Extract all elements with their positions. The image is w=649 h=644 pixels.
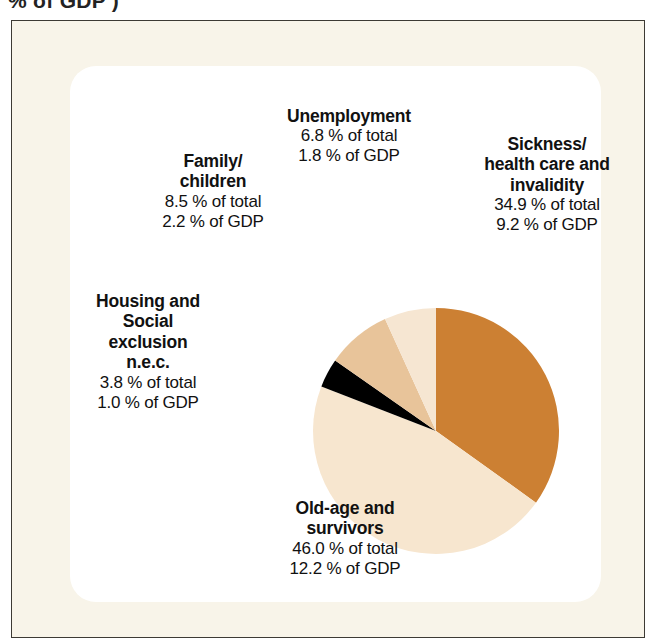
pie-label-oldage-total: 46.0 % of total — [227, 539, 463, 559]
pie-label-oldage: Old-age and survivors 46.0 % of total 12… — [227, 498, 463, 579]
pie-label-sickness-total: 34.9 % of total — [449, 195, 645, 215]
figure-frame: Unemployment 6.8 % of total 1.8 % of GDP… — [11, 20, 645, 638]
pie-label-family-title-line2: children — [118, 171, 308, 191]
pie-label-housing-gdp: 1.0 % of GDP — [50, 393, 246, 413]
pie-label-sickness-title-line1: Sickness/ — [449, 134, 645, 154]
pie-label-sickness-title-line2: health care and — [449, 154, 645, 174]
pie-label-housing: Housing and Social exclusion n.e.c. 3.8 … — [50, 291, 246, 413]
pie-label-sickness-gdp: 9.2 % of GDP — [449, 215, 645, 235]
pie-label-housing-title-line1: Housing and — [50, 291, 246, 311]
pie-label-family-total: 8.5 % of total — [118, 192, 308, 212]
pie-label-oldage-title-line2: survivors — [227, 518, 463, 538]
pie-label-housing-title-line3: exclusion — [50, 332, 246, 352]
pie-label-sickness-title-line3: invalidity — [449, 175, 645, 195]
pie-label-oldage-title-line1: Old-age and — [227, 498, 463, 518]
pie-label-family-gdp: 2.2 % of GDP — [118, 212, 308, 232]
pie-label-sickness: Sickness/ health care and invalidity 34.… — [449, 134, 645, 235]
pie-label-housing-total: 3.8 % of total — [50, 373, 246, 393]
caption-fragment-text: % of GDP ) — [8, 0, 119, 12]
pie-label-oldage-gdp: 12.2 % of GDP — [227, 559, 463, 579]
pie-label-unemployment-total: 6.8 % of total — [244, 126, 454, 146]
pie-label-housing-title-line2: Social — [50, 311, 246, 331]
pie-label-family-title-line1: Family/ — [118, 151, 308, 171]
pie-label-family: Family/ children 8.5 % of total 2.2 % of… — [118, 151, 308, 232]
pie-label-unemployment-title: Unemployment — [244, 106, 454, 126]
pie-label-housing-title-line4: n.e.c. — [50, 352, 246, 372]
figure-page: % of GDP ) Unemployment 6.8 % of total 1… — [0, 0, 649, 644]
